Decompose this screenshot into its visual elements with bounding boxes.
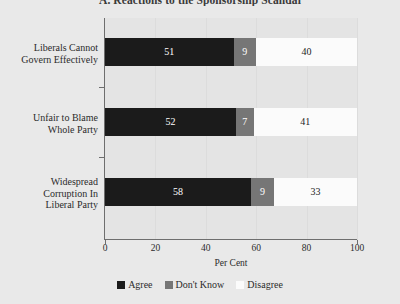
x-axis-tick [357, 240, 358, 245]
bar-segment-agree[interactable]: 52 [105, 108, 236, 136]
y-axis-tick [99, 157, 105, 158]
legend-item-dont-know[interactable]: Don't Know [165, 279, 225, 290]
chart-legend: Agree Don't Know Disagree [0, 279, 400, 290]
bar-segment-disagree[interactable]: 41 [254, 108, 357, 136]
bar-segment-don-t-know[interactable]: 9 [234, 38, 257, 66]
legend-swatch-icon [236, 281, 244, 289]
bar-segment-disagree[interactable]: 40 [256, 38, 357, 66]
bar-row: 52741 [0, 108, 400, 136]
x-axis-title: Per Cent [105, 258, 357, 268]
x-tick-label: 60 [236, 243, 276, 253]
bar-segment-agree[interactable]: 51 [105, 38, 234, 66]
x-tick-label: 20 [135, 243, 175, 253]
bar-segment-don-t-know[interactable]: 7 [236, 108, 254, 136]
x-tick-label: 80 [287, 243, 327, 253]
legend-label: Agree [128, 279, 152, 290]
legend-swatch-icon [117, 281, 125, 289]
chart-figure: A. Reactions to the Sponsorship Scandal … [0, 0, 400, 304]
bar-segment-agree[interactable]: 58 [105, 178, 251, 206]
x-axis-tick [105, 240, 106, 245]
legend-label: Disagree [247, 279, 283, 290]
bar-row: 51940 [0, 38, 400, 66]
x-tick-label: 40 [186, 243, 226, 253]
legend-label: Don't Know [176, 279, 225, 290]
y-axis-tick [99, 87, 105, 88]
bar-row: 58933 [0, 178, 400, 206]
bar-segment-disagree[interactable]: 33 [274, 178, 357, 206]
legend-item-agree[interactable]: Agree [117, 279, 152, 290]
legend-swatch-icon [165, 281, 173, 289]
legend-item-disagree[interactable]: Disagree [236, 279, 283, 290]
x-axis-line [104, 239, 357, 240]
bar-segment-don-t-know[interactable]: 9 [251, 178, 274, 206]
chart-title: A. Reactions to the Sponsorship Scandal [0, 0, 400, 6]
